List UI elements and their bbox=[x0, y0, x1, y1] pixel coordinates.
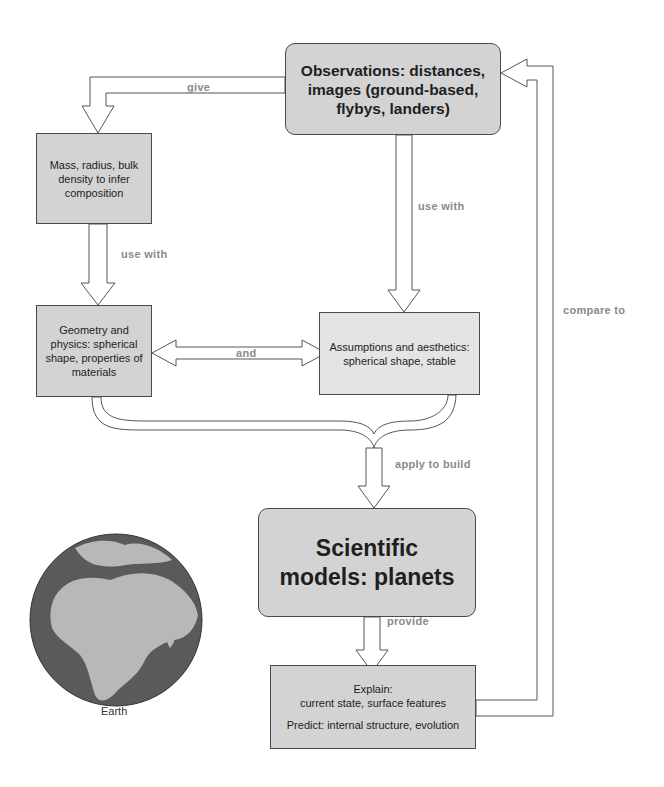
label-apply-to-build: apply to build bbox=[395, 458, 471, 470]
observations-text: Observations: distances, images (ground-… bbox=[286, 61, 500, 118]
explain-title: Explain: bbox=[287, 682, 459, 696]
assumptions-box: Assumptions and aesthetics: spherical sh… bbox=[319, 312, 480, 395]
arrow-give bbox=[82, 77, 285, 133]
label-use-with-left: use with bbox=[121, 248, 167, 260]
arrow-compare-to bbox=[476, 59, 553, 716]
scientific-models-text: Scientific models: planets bbox=[269, 534, 465, 592]
scientific-models-box: Scientific models: planets bbox=[258, 508, 476, 617]
predict-text: Predict: internal structure, evolution bbox=[287, 718, 459, 732]
label-provide: provide bbox=[387, 615, 429, 627]
geometry-box: Geometry and physics: spherical shape, p… bbox=[36, 305, 152, 397]
label-give: give bbox=[187, 81, 210, 93]
arrow-provide bbox=[356, 617, 388, 672]
earth-caption: Earth bbox=[101, 705, 127, 717]
geometry-text: Geometry and physics: spherical shape, p… bbox=[43, 323, 145, 379]
mass-box: Mass, radius, bulk density to infer comp… bbox=[36, 133, 152, 224]
observations-box: Observations: distances, images (ground-… bbox=[285, 43, 501, 135]
explain-predict-box: Explain: current state, surface features… bbox=[270, 665, 476, 749]
explain-text: current state, surface features bbox=[287, 696, 459, 710]
arrow-apply-to-build bbox=[92, 395, 456, 448]
arrow-use-with-left bbox=[81, 224, 115, 305]
arrow-apply-stem bbox=[358, 448, 390, 508]
label-use-with-right: use with bbox=[418, 200, 464, 212]
arrow-use-with-right bbox=[388, 135, 420, 312]
label-compare-to: compare to bbox=[563, 304, 625, 316]
assumptions-text: Assumptions and aesthetics: spherical sh… bbox=[324, 340, 475, 368]
label-and: and bbox=[236, 347, 256, 359]
mass-text: Mass, radius, bulk density to infer comp… bbox=[45, 158, 143, 200]
earth-globe-icon bbox=[30, 534, 202, 706]
